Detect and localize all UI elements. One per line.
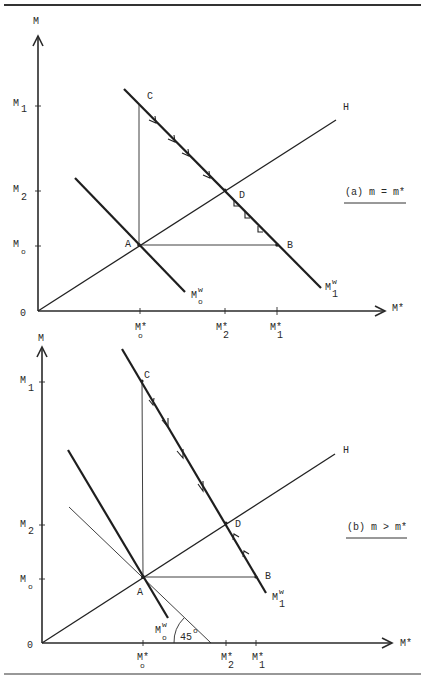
m0w-label-a: M w o	[191, 285, 203, 306]
y-tick-m1-b: M 1	[20, 375, 34, 394]
svg-text:w: w	[198, 285, 203, 294]
h-line-b	[42, 454, 335, 643]
svg-text:1: 1	[332, 289, 338, 300]
origin-label-b: 0	[27, 640, 33, 651]
point-a-label-a: A	[125, 239, 131, 250]
vertical-ac-b	[142, 381, 143, 577]
svg-text:M: M	[272, 592, 278, 603]
svg-text:o: o	[198, 297, 203, 306]
point-c-label-a: C	[147, 91, 153, 102]
point-b-label-b: B	[265, 571, 271, 582]
svg-text:M: M	[191, 290, 197, 301]
arrows-c-to-d-b	[149, 398, 203, 491]
y-tick-m0-b: M o	[20, 574, 33, 591]
svg-text:o: o	[28, 582, 33, 591]
m0w-label-b: M w o	[155, 620, 167, 642]
h-label-b: H	[343, 445, 349, 456]
svg-text:1: 1	[259, 660, 265, 671]
x-tick-m0-b: M* o	[137, 652, 149, 670]
h-line-a	[38, 120, 336, 311]
x-axis-label-b: M*	[400, 638, 412, 649]
origin-label-a: 0	[20, 308, 26, 319]
svg-text:w: w	[332, 277, 337, 286]
y-tick-m2-a: M 2	[13, 184, 27, 203]
point-b-label-a: B	[287, 240, 293, 251]
y-axis-label-b: M	[38, 333, 44, 344]
svg-text:M: M	[325, 282, 331, 293]
svg-text:o: o	[138, 331, 143, 340]
svg-text:o: o	[21, 247, 26, 256]
svg-text:M: M	[13, 98, 19, 109]
svg-text:w: w	[279, 587, 284, 596]
svg-text:M: M	[20, 574, 26, 585]
y-axis-label-a: M	[33, 16, 39, 27]
45-degree-line-b	[69, 507, 211, 643]
point-c-label-b: C	[144, 370, 150, 381]
m0w-curve-b	[68, 450, 168, 618]
point-d-label-b: D	[235, 519, 241, 530]
svg-text:M: M	[13, 184, 19, 195]
svg-text:2: 2	[228, 660, 234, 671]
svg-text:1: 1	[21, 104, 27, 115]
svg-text:o: o	[193, 626, 198, 635]
svg-text:M: M	[20, 375, 26, 386]
caption-a: (a) m = m*	[345, 187, 405, 198]
svg-text:o: o	[140, 661, 145, 670]
svg-text:w: w	[162, 620, 167, 629]
m1w-label-a: M w 1	[325, 277, 338, 300]
x-tick-m1-b: M* 1	[252, 652, 265, 671]
m1w-curve-b	[122, 349, 266, 593]
panel-b: M M* 0 M 1 M 2 M o M* o M* 2	[20, 333, 412, 671]
svg-text:1: 1	[277, 330, 283, 341]
svg-text:1: 1	[28, 383, 34, 394]
svg-text:M: M	[13, 239, 19, 250]
point-a-label-b: A	[137, 587, 143, 598]
angle-label-b: 45 o	[180, 626, 198, 643]
svg-text:2: 2	[28, 526, 34, 537]
panel-a: M M* 0 M 1 M 2 M o M* o M* 2	[13, 16, 406, 341]
svg-text:45: 45	[180, 632, 192, 643]
svg-text:o: o	[162, 633, 167, 642]
y-tick-m0-a: M o	[13, 239, 26, 256]
x-axis-label-a: M*	[392, 303, 404, 314]
svg-text:M: M	[20, 519, 26, 530]
y-tick-m1-a: M 1	[13, 98, 27, 115]
x-tick-m0-a: M* o	[135, 322, 147, 340]
m0w-curve-a	[75, 178, 185, 292]
svg-text:2: 2	[21, 192, 27, 203]
h-label-a: H	[343, 102, 349, 113]
x-tick-m1-a: M* 1	[270, 322, 283, 341]
arrows-b-to-d-b	[233, 534, 249, 557]
caption-b: (b) m > m*	[347, 522, 407, 533]
y-tick-m2-b: M 2	[20, 519, 34, 537]
svg-text:M: M	[155, 625, 161, 636]
svg-text:1: 1	[279, 599, 285, 610]
point-d-label-a: D	[239, 190, 245, 201]
diagram-canvas: M M* 0 M 1 M 2 M o M* o M* 2	[0, 0, 426, 682]
m1w-label-b: M w 1	[272, 587, 285, 610]
x-tick-m2-a: M* 2	[216, 322, 229, 341]
x-tick-m2-b: M* 2	[221, 652, 234, 671]
arrows-c-to-d-a	[149, 116, 210, 178]
svg-text:2: 2	[223, 330, 229, 341]
